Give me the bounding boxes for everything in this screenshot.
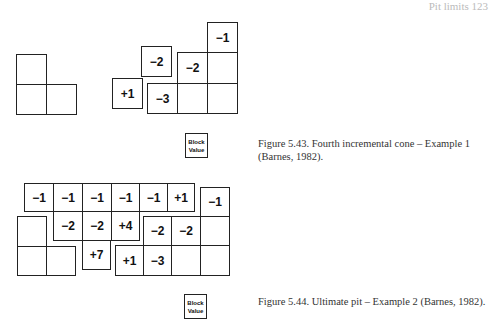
block-cell	[200, 216, 230, 246]
block-cell: −1	[53, 183, 83, 212]
block-cell: −1	[139, 183, 168, 212]
legend-line-1: Block	[188, 138, 204, 146]
block-cell	[16, 54, 47, 85]
block-cell: +1	[115, 245, 144, 276]
figure-5-43-caption: Figure 5.43. Fourth incremental cone – E…	[258, 137, 488, 163]
block-cell	[17, 246, 47, 276]
block-cell	[200, 245, 230, 276]
block-cell: −2	[171, 216, 201, 246]
block-cell: −3	[143, 245, 172, 276]
legend-line-1: Block	[187, 299, 203, 307]
figure-5-43-legend: Block Value	[185, 133, 208, 158]
block-cell: +7	[82, 240, 111, 270]
legend-line-2: Value	[188, 307, 204, 315]
figure-5-44-caption: Figure 5.44. Ultimate pit – Example 2 (B…	[258, 295, 488, 308]
block-cell: −1	[207, 22, 238, 53]
block-cell	[46, 246, 76, 276]
block-cell	[177, 83, 208, 114]
block-cell: −2	[53, 211, 83, 241]
block-cell	[16, 84, 47, 115]
legend-line-2: Value	[189, 146, 205, 154]
block-cell: +4	[111, 211, 140, 241]
block-cell: −1	[111, 183, 140, 212]
block-cell: −3	[147, 83, 178, 114]
block-cell: −1	[24, 183, 54, 212]
block-cell: −2	[177, 52, 208, 84]
block-cell: +1	[167, 183, 195, 212]
block-cell	[17, 216, 47, 247]
block-cell	[207, 83, 238, 114]
block-cell: −2	[82, 211, 112, 241]
block-cell	[46, 84, 77, 115]
page-header: Pit limits 123	[429, 0, 488, 12]
block-cell: −2	[143, 216, 172, 246]
block-cell	[207, 52, 238, 84]
block-cell: +1	[112, 78, 143, 109]
figure-5-44-legend: Block Value	[184, 294, 207, 319]
block-cell: −2	[141, 46, 172, 77]
block-cell: −1	[82, 183, 112, 212]
block-cell: −1	[200, 187, 230, 217]
block-cell	[171, 245, 201, 276]
